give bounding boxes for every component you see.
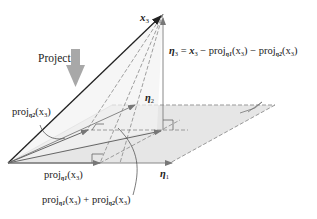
eta1-label: η1 [160,168,169,180]
proj-eta2-label: projη2(x3) [12,106,51,118]
projection-diagram: Project x3 η3 = x3 − projη1(x3) − projη2… [0,0,317,219]
x3-label: x3 [139,11,150,25]
project-label: Project [38,52,71,65]
project-arrow-head [66,65,85,87]
proj-eta1-label: projη1(x3) [44,169,83,181]
sum-projection-label: projη1(x3) + projη2(x3) [42,194,131,206]
eta3-equation: η3 = x3 − projη1(x3) − projη2(x3) [169,45,298,57]
project-arrow-shaft [71,49,80,65]
